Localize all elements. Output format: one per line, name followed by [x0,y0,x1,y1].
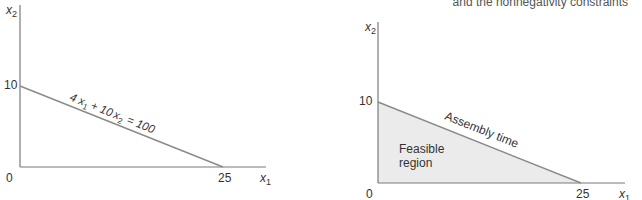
right-x-tick-25: 25 [576,187,590,200]
diagram-canvas: x2 10 0 25 x1 4x1+10x2= 100 x2 10 0 25 x… [0,0,642,200]
right-chart: x2 10 0 25 x1 Assembly time Feasible reg… [359,20,630,200]
right-y-axis-label: x2 [364,20,376,36]
right-origin-label: 0 [366,187,373,200]
left-constraint-line [20,86,223,167]
left-equation-label: 4x1+10x2= 100 [67,91,157,139]
left-x-axis-label: x1 [259,171,271,187]
right-x-axis-label: x1 [618,187,630,200]
left-y-axis-label: x2 [5,3,17,19]
left-x-tick-25: 25 [218,171,232,185]
feasible-region-label-line2: region [399,156,432,170]
left-origin-label: 0 [6,171,13,185]
left-y-tick-10: 10 [4,78,18,92]
left-chart: x2 10 0 25 x1 4x1+10x2= 100 [4,3,271,187]
feasible-region-label-line1: Feasible [399,142,445,156]
svg-text:4x1+10x2= 100: 4x1+10x2= 100 [67,91,157,139]
right-y-tick-10: 10 [359,94,373,108]
